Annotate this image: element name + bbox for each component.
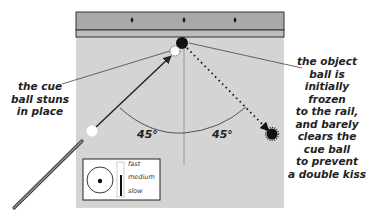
annotation-line: the object	[286, 55, 368, 68]
annotation-line: a double kiss	[286, 168, 368, 181]
annotation-line: ball stuns	[2, 93, 78, 106]
top-rail	[76, 12, 284, 30]
annotation-line: in place	[2, 105, 78, 118]
speed-slow-label: slow	[128, 187, 143, 195]
angle-label-right: 45°	[212, 128, 233, 141]
cue-ball-annotation: the cue ball stuns in place	[2, 80, 78, 118]
ghost-cue-ball	[170, 46, 180, 56]
annotation-line: and barely	[286, 118, 368, 131]
cue-stick	[14, 141, 82, 208]
cue-ball	[87, 126, 98, 137]
annotation-line: initially frozen	[286, 80, 368, 105]
tip-contact-point	[98, 179, 102, 183]
speed-bar-fill	[120, 175, 122, 196]
angle-label-left: 45°	[137, 128, 158, 141]
annotation-line: ball is	[286, 68, 368, 81]
rail-cushion	[76, 30, 284, 37]
annotation-line: to the rail,	[286, 105, 368, 118]
annotation-line: to prevent	[286, 155, 368, 168]
annotation-line: cue ball	[286, 143, 368, 156]
speed-medium-label: medium	[128, 173, 155, 181]
billiards-diagram: fast medium slow 45° 45° the cue ball st…	[0, 0, 369, 216]
speed-fast-label: fast	[128, 160, 140, 168]
annotation-line: clears the	[286, 130, 368, 143]
annotation-line: the cue	[2, 80, 78, 93]
object-ball-annotation: the object ball is initially frozen to t…	[286, 55, 368, 180]
